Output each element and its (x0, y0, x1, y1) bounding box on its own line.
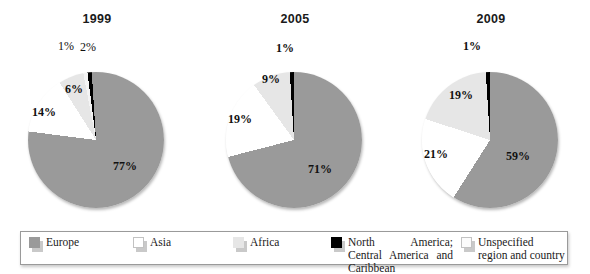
chart-title-2009: 2009 (396, 12, 586, 26)
chart-title-2005: 2005 (200, 12, 390, 26)
legend-item-africa: Africa (233, 236, 313, 249)
pie-chart-1999: 1999 1% 2% 6% 14% 77% (2, 0, 192, 228)
legend-item-north-america: North America; Central America and Carib… (331, 236, 453, 274)
label-asia-2009: 21% (424, 148, 448, 160)
legend-swatch-unspecified-icon (461, 237, 472, 248)
legend-label-europe: Europe (46, 236, 79, 249)
legend-label-unspecified: Unspecified region and country (478, 236, 565, 262)
label-africa-2009: 19% (449, 89, 473, 101)
label-asia-1999: 14% (32, 106, 56, 118)
pie-graphic-2009 (422, 72, 558, 208)
label-north-america-2005: 1% (276, 42, 294, 54)
label-africa-1999: 6% (65, 83, 83, 95)
legend-item-unspecified: Unspecified region and country (461, 236, 565, 262)
pie-graphic-1999 (28, 72, 164, 208)
legend-swatch-north-america-icon (331, 237, 342, 248)
legend-item-europe: Europe (29, 236, 121, 249)
pie-chart-2009: 2009 1% 19% 21% 59% (396, 0, 586, 228)
pie-slices-2009 (422, 72, 558, 208)
label-africa-2005: 9% (262, 73, 280, 85)
legend-label-africa: Africa (250, 236, 279, 249)
legend-swatch-europe-icon (29, 237, 40, 248)
legend-swatch-africa-icon (233, 237, 244, 248)
pie-graphic-2005 (226, 72, 362, 208)
chart-title-1999: 1999 (2, 12, 192, 26)
legend-label-asia: Asia (150, 236, 171, 249)
label-europe-1999: 77% (113, 160, 137, 172)
legend-swatch-asia-icon (133, 237, 144, 248)
legend-label-north-america: North America; Central America and Carib… (348, 236, 453, 274)
label-north-america-2009: 1% (463, 40, 481, 52)
label-unspecified-1999: 2% (80, 41, 96, 53)
pie-slices-2005 (226, 72, 362, 208)
pie-chart-2005: 2005 1% 9% 19% 71% (200, 0, 390, 228)
label-europe-2009: 59% (506, 150, 530, 162)
label-asia-2005: 19% (228, 113, 252, 125)
pie-slices-1999 (28, 72, 164, 208)
pie-chart-group: 1999 1% 2% 6% 14% 77% 2005 1% 9% 19% 71%… (0, 0, 590, 228)
label-north-america-1999: 1% (58, 40, 74, 52)
legend-item-asia: Asia (133, 236, 213, 249)
legend: Europe Asia Africa North America; Centra… (20, 231, 568, 265)
label-europe-2005: 71% (308, 163, 332, 175)
